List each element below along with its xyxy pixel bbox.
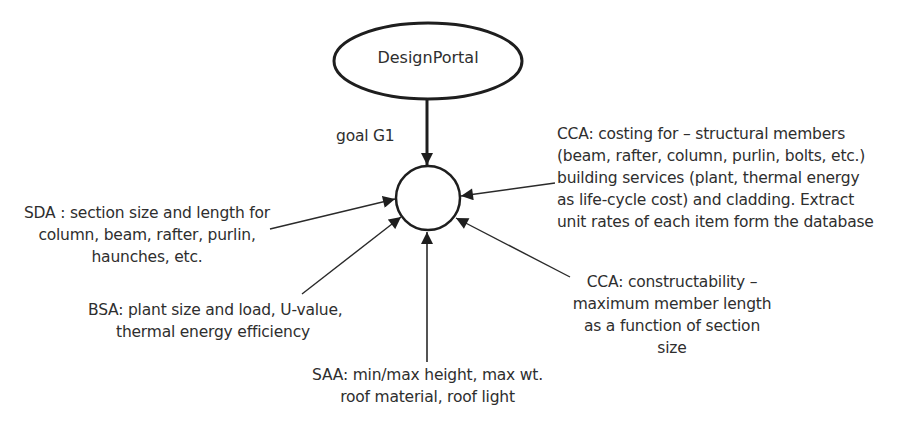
cca-constructability-line: as a function of section xyxy=(562,315,782,337)
cca-constructability-edge-arrow xyxy=(456,218,570,277)
goal-edge-label: goal G1 xyxy=(336,125,395,147)
sda-edge-arrow xyxy=(270,199,395,229)
saa-line: roof material, roof light xyxy=(300,386,555,408)
root-node-label: DesignPortal xyxy=(333,48,523,67)
saa-line: SAA: min/max height, max wt. xyxy=(300,364,555,386)
bsa-line: BSA: plant size and load, U-value, xyxy=(88,299,338,321)
hub-node-circle[interactable] xyxy=(396,166,460,230)
cca-constructability-input-label: CCA: constructability – maximum member l… xyxy=(562,271,782,359)
cca-costing-line: building services (plant, thermal energy xyxy=(557,167,874,189)
saa-input-label: SAA: min/max height, max wt. roof materi… xyxy=(300,364,555,408)
cca-costing-line: (beam, rafter, column, purlin, bolts, et… xyxy=(557,145,874,167)
cca-costing-input-label: CCA: costing for – structural members (b… xyxy=(557,123,874,233)
cca-costing-line: CCA: costing for – structural members xyxy=(557,123,874,145)
sda-input-label: SDA : section size and length for column… xyxy=(22,202,272,268)
sda-line: column, beam, rafter, purlin, xyxy=(22,224,272,246)
cca-costing-edge-arrow xyxy=(461,183,555,196)
sda-line: haunches, etc. xyxy=(22,246,272,268)
cca-constructability-line: size xyxy=(562,337,782,359)
sda-line: SDA : section size and length for xyxy=(22,202,272,224)
bsa-input-label: BSA: plant size and load, U-value, therm… xyxy=(88,299,338,343)
bsa-edge-arrow xyxy=(302,217,401,294)
cca-costing-line: unit rates of each item form the databas… xyxy=(557,211,874,233)
bsa-line: thermal energy efficiency xyxy=(88,321,338,343)
cca-costing-line: as life-cycle cost) and cladding. Extrac… xyxy=(557,189,874,211)
cca-constructability-line: CCA: constructability – xyxy=(562,271,782,293)
cca-constructability-line: maximum member length xyxy=(562,293,782,315)
